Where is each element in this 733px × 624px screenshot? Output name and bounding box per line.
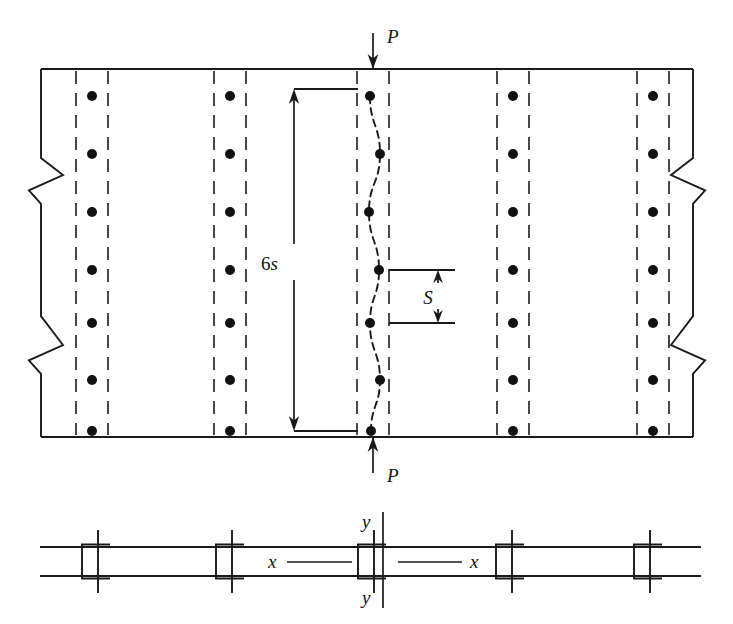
x-axis-label-right: x [469,551,479,572]
channel-profile [358,545,386,579]
rivet-dot [375,375,385,385]
rivet-dot [225,265,235,275]
rivet-dot [366,426,376,436]
rivet-dot [648,426,658,436]
rivet-dot [87,265,97,275]
pitch-dimension-group: S [389,270,455,323]
rivet-dot [374,265,384,275]
pitch-label: S [423,287,433,308]
rivet-dot [648,207,658,217]
rivet-dot [508,207,518,217]
rivet-dots [87,91,658,436]
rivet-dot [508,149,518,159]
plate-outline [29,69,705,437]
y-axis-label-top: y [360,511,371,532]
plan-view-group [29,69,705,437]
rivet-dot [648,318,658,328]
rivet-dot [508,91,518,101]
rivet-dot [225,149,235,159]
rivet-dot [87,375,97,385]
load-label-top: P [386,26,399,47]
rivet-dot [508,375,518,385]
x-axis-label-left: x [267,551,277,572]
section-channel [496,530,524,593]
rivet-dot [648,265,658,275]
rivet-dot [648,375,658,385]
rivet-dot [225,375,235,385]
rivet-dot [225,426,235,436]
y-axis-label-bottom: y [360,587,371,608]
structural-diagram: P P 6s S y [0,0,733,624]
rivet-dot [365,91,375,101]
load-label-bottom: P [386,465,399,486]
overall-dimension-group: 6s [261,89,358,431]
rivet-dot [87,91,97,101]
section-channel [634,530,662,593]
rivet-dot [364,207,374,217]
channel-profile [216,545,244,579]
rivet-dot [508,265,518,275]
plate-right-break-edge [671,69,705,437]
rivet-dot [508,426,518,436]
section-view-group: y y x x [41,511,700,608]
stiffener-dashed-lines [76,71,669,435]
overall-length-label: 6s [261,253,278,274]
plate-left-break-edge [29,69,63,437]
rivet-dot [225,318,235,328]
channel-profile [496,545,524,579]
section-channel [82,530,110,593]
rivet-dot [365,318,375,328]
rivet-dot [648,91,658,101]
rivet-dot [648,149,658,159]
rivet-dot [87,318,97,328]
section-channel [216,530,244,593]
channel-profile [82,545,110,579]
section-channels [82,530,662,593]
rivet-dot [87,207,97,217]
channel-profile [634,545,662,579]
figure-root: P P 6s S y [0,0,733,624]
rivet-dot [87,149,97,159]
rivet-dot [225,91,235,101]
rivet-dot [87,426,97,436]
rivet-dot [375,149,385,159]
rivet-dot [225,207,235,217]
section-channel [358,530,386,593]
rivet-dot [508,318,518,328]
